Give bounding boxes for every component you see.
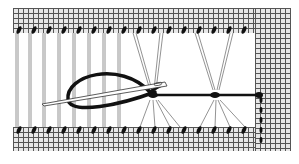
top-stitches	[15, 26, 247, 35]
working-thread	[68, 74, 259, 108]
right-vertical-stitches	[260, 97, 263, 143]
hemstitch-illustration	[0, 0, 299, 164]
bottom-stitches	[15, 126, 247, 135]
